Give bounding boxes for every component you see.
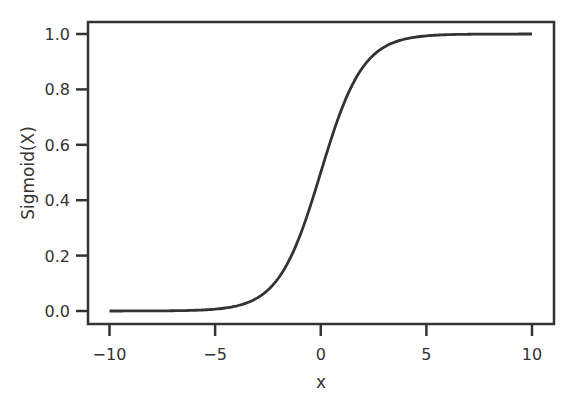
y-tick-label: 1.0 [45,25,70,44]
y-tick-label: 0.6 [45,136,70,155]
x-axis-label: x [316,372,326,392]
x-tick-label: 5 [421,345,431,364]
y-tick-label: 0.0 [45,302,70,321]
y-axis-ticks: 0.00.20.40.60.81.0 [45,25,88,321]
y-tick-label: 0.8 [45,80,70,99]
x-tick-label: −5 [203,345,227,364]
sigmoid-curve [110,34,533,311]
sigmoid-chart: −10−50510 0.00.20.40.60.81.0 x Sigmoid(X… [0,0,566,398]
x-axis-ticks: −10−50510 [93,324,543,364]
y-tick-label: 0.4 [45,191,70,210]
x-tick-label: 10 [522,345,542,364]
y-tick-label: 0.2 [45,247,70,266]
y-axis-label: Sigmoid(X) [18,126,38,220]
x-tick-label: 0 [316,345,326,364]
x-tick-label: −10 [93,345,127,364]
